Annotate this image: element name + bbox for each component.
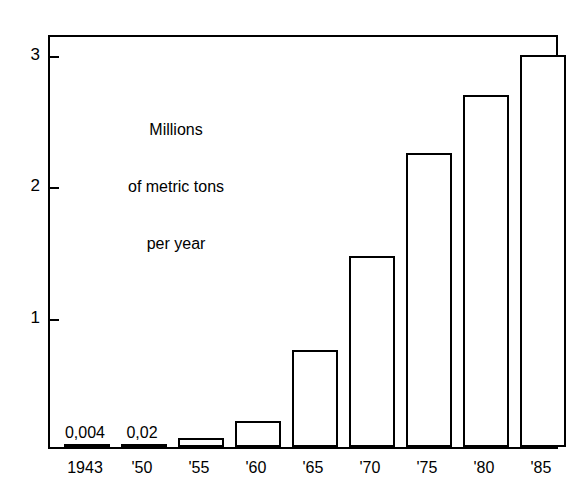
x-tick-label: '85: [501, 459, 581, 477]
bar: [463, 95, 509, 447]
bar: [349, 256, 395, 447]
bar: [178, 438, 224, 447]
bar: [292, 350, 338, 447]
bar: [406, 153, 452, 447]
bar: [520, 55, 566, 447]
bar-chart: 123 Millions of metric tons per year 0,0…: [0, 0, 586, 501]
plot-area: Millions of metric tons per year: [48, 35, 558, 449]
y-tick-label: 1: [0, 309, 40, 326]
bars-layer: [50, 37, 556, 447]
bar-value-label: 0,02: [102, 425, 182, 441]
bar: [121, 444, 167, 447]
bar: [235, 421, 281, 447]
y-tick-label: 3: [0, 46, 40, 63]
bar: [64, 444, 110, 447]
y-tick-label: 2: [0, 177, 40, 194]
